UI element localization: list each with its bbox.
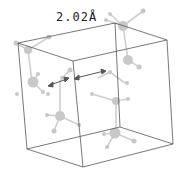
unit-cell-drawing: [0, 0, 185, 181]
bond-distance-label: 2.02Å: [56, 10, 97, 24]
distance-arrows: [48, 69, 106, 87]
unit-cell-diagram: 2.02Å: [0, 0, 185, 181]
